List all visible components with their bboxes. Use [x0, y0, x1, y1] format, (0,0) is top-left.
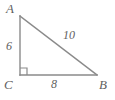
side-length-label-ac: 6: [6, 40, 12, 52]
triangle-drawing: [0, 0, 115, 100]
vertex-label-b: B: [99, 78, 107, 91]
vertex-label-a: A: [6, 2, 14, 15]
right-triangle-figure: A C B 6 10 8: [0, 0, 115, 100]
right-angle-icon: [20, 68, 27, 75]
vertex-label-c: C: [4, 78, 13, 91]
side-length-label-ab: 10: [63, 29, 75, 41]
segment-ab: [20, 16, 97, 75]
side-length-label-cb: 8: [51, 78, 57, 90]
